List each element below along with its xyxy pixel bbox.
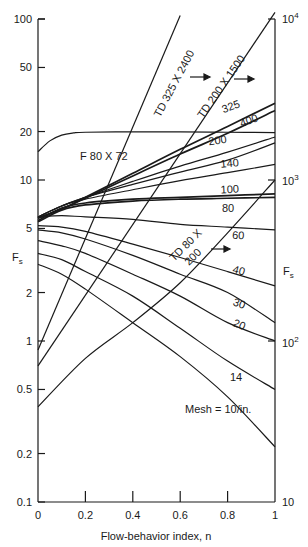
filter-factor-chart: 0.10.20.5125102050100 00.20.40.60.81 Flo… bbox=[0, 0, 308, 547]
mesh-label-200: 200 bbox=[208, 133, 228, 147]
left-y-axis-title: Fs bbox=[12, 251, 23, 266]
x-tick-label: 0.6 bbox=[173, 509, 188, 521]
curve-10 bbox=[38, 264, 275, 447]
mesh-label-325: 325 bbox=[220, 97, 241, 115]
left-tick-label: 10 bbox=[20, 174, 32, 186]
right-tick-10: 10 bbox=[282, 496, 294, 508]
mesh-note: Mesh = 10/in. bbox=[185, 403, 251, 415]
mesh-label-80: 80 bbox=[222, 202, 234, 214]
mesh-label-400: 400 bbox=[238, 111, 259, 129]
left-tick-label: 2 bbox=[26, 287, 32, 299]
left-tick-label: 0.2 bbox=[17, 448, 32, 460]
mesh-label-30: 30 bbox=[232, 296, 248, 311]
x-tick-label: 1 bbox=[272, 509, 278, 521]
curve-60 bbox=[38, 216, 275, 230]
mesh-label-60: 60 bbox=[232, 229, 245, 242]
mesh-label-100: 100 bbox=[220, 183, 239, 196]
left-tick-label: 1 bbox=[26, 335, 32, 347]
left-tick-label: 0.5 bbox=[17, 383, 32, 395]
mesh-label-14: 14 bbox=[230, 371, 242, 383]
right-y-axis-title: Fs bbox=[283, 265, 294, 280]
arrow-icon-td200 bbox=[234, 76, 254, 82]
x-axis-title: Flow-behavior index, n bbox=[101, 530, 212, 542]
x-tick-label: 0 bbox=[35, 509, 41, 521]
left-tick-label: 50 bbox=[20, 61, 32, 73]
label-td200x1500: TD 200 X 1500 bbox=[195, 53, 247, 121]
right-tick-1000: 103 bbox=[282, 173, 299, 187]
label-f80x72: F 80 X 72 bbox=[80, 150, 128, 162]
x-tick-label: 0.2 bbox=[78, 509, 93, 521]
left-tick-label: 5 bbox=[26, 222, 32, 234]
left-tick-label: 20 bbox=[20, 126, 32, 138]
right-y-ticks bbox=[268, 180, 275, 341]
mesh-label-40: 40 bbox=[232, 263, 247, 278]
right-tick-100: 102 bbox=[282, 335, 299, 349]
label-td325x2400: TD 325 X 2400 bbox=[151, 48, 196, 119]
right-tick-10000: 104 bbox=[282, 11, 299, 25]
x-tick-label: 0.4 bbox=[125, 509, 140, 521]
left-tick-label: 100 bbox=[14, 13, 32, 25]
left-tick-label: 0.1 bbox=[17, 496, 32, 508]
mesh-label-140: 140 bbox=[220, 156, 239, 170]
curve-100 bbox=[38, 164, 275, 216]
x-ticks: 00.20.40.60.81 bbox=[35, 491, 278, 521]
curve-140 bbox=[38, 143, 275, 217]
mesh-curve-labels: 325400200140100806040302014 bbox=[208, 97, 260, 383]
axes bbox=[38, 19, 275, 502]
x-tick-label: 0.8 bbox=[220, 509, 235, 521]
curve-td-325-x-2400 bbox=[38, 16, 180, 350]
arrow-icon-td325 bbox=[190, 74, 210, 80]
